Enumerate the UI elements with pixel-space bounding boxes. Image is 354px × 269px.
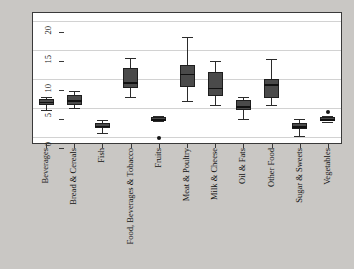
box-plot-item <box>264 0 279 132</box>
median-line <box>208 88 223 90</box>
box-iqr <box>264 79 279 98</box>
box-plot-item <box>208 0 223 132</box>
box-iqr <box>123 68 138 89</box>
cap-upper <box>41 97 52 98</box>
median-line <box>151 119 166 121</box>
cap-upper <box>210 61 221 62</box>
cap-lower <box>153 121 164 122</box>
box-plot-item <box>236 0 251 132</box>
whisker-lower <box>187 87 188 102</box>
y-axis-tick <box>59 61 64 62</box>
outlier-point <box>326 110 330 114</box>
whisker-lower <box>215 96 216 105</box>
cap-upper <box>182 37 193 38</box>
cap-lower <box>266 105 277 106</box>
cap-upper <box>97 120 108 121</box>
whisker-lower <box>243 110 244 119</box>
x-axis-tick-label: Milk & Cheese <box>210 148 219 200</box>
median-line <box>292 126 307 128</box>
cap-upper <box>69 91 80 92</box>
x-axis-tick-label: Other Food <box>267 148 276 187</box>
whisker-lower <box>271 98 272 106</box>
y-axis-tick <box>59 90 64 91</box>
median-line <box>236 106 251 108</box>
median-line <box>95 126 110 128</box>
x-axis-tick-label: Sugar & Sweets <box>295 148 304 203</box>
median-line <box>180 74 195 76</box>
x-axis-tick-label: Oil & Fats <box>238 148 247 184</box>
whisker-lower <box>299 129 300 136</box>
cap-upper <box>238 97 249 98</box>
cap-lower <box>294 136 305 137</box>
y-axis-tick <box>59 148 64 149</box>
whisker-upper <box>130 58 131 68</box>
box-plot-item <box>123 0 138 132</box>
cap-lower <box>97 133 108 134</box>
cap-upper <box>294 119 305 120</box>
box-plot-item <box>180 0 195 132</box>
cap-lower <box>41 110 52 111</box>
cap-lower <box>322 122 333 123</box>
x-axis-tick-label: Fish <box>97 148 106 163</box>
cap-upper <box>125 58 136 59</box>
whisker-upper <box>215 61 216 73</box>
chart-figure: 05101520 BeveragesBread & CerealsFishFoo… <box>0 0 354 269</box>
box-plot-item <box>95 0 110 132</box>
box-iqr <box>208 72 223 96</box>
cap-lower <box>69 108 80 109</box>
median-line <box>320 119 335 121</box>
box-iqr <box>236 100 251 110</box>
whisker-upper <box>271 59 272 79</box>
y-axis-tick <box>59 119 64 120</box>
median-line <box>67 100 82 102</box>
x-axis-tick-label: Fruits <box>154 148 163 168</box>
x-axis-tick-label: Food, Beverages & Tobacco <box>126 148 135 245</box>
cap-lower <box>182 101 193 102</box>
x-axis-tick-label: Beverages <box>41 148 50 183</box>
gridline <box>33 137 341 138</box>
whisker-upper <box>187 37 188 64</box>
cap-lower <box>238 119 249 120</box>
x-axis-tick-label: Bread & Cereals <box>69 148 78 205</box>
cap-lower <box>125 97 136 98</box>
box-plot-item <box>292 0 307 132</box>
box-iqr <box>180 65 195 87</box>
cap-lower <box>210 105 221 106</box>
box-plot-item <box>39 0 54 132</box>
box-plot-item <box>151 0 166 132</box>
box-plot-item <box>320 0 335 132</box>
median-line <box>264 84 279 86</box>
x-axis-tick-label: Meat & Poultry <box>182 148 191 201</box>
box-plot-item <box>67 0 82 132</box>
median-line <box>123 82 138 84</box>
whisker-lower <box>130 88 131 96</box>
x-axis-tick-label: Vegetables <box>323 148 332 185</box>
cap-upper <box>266 59 277 60</box>
median-line <box>39 102 54 104</box>
y-axis-tick <box>59 32 64 33</box>
